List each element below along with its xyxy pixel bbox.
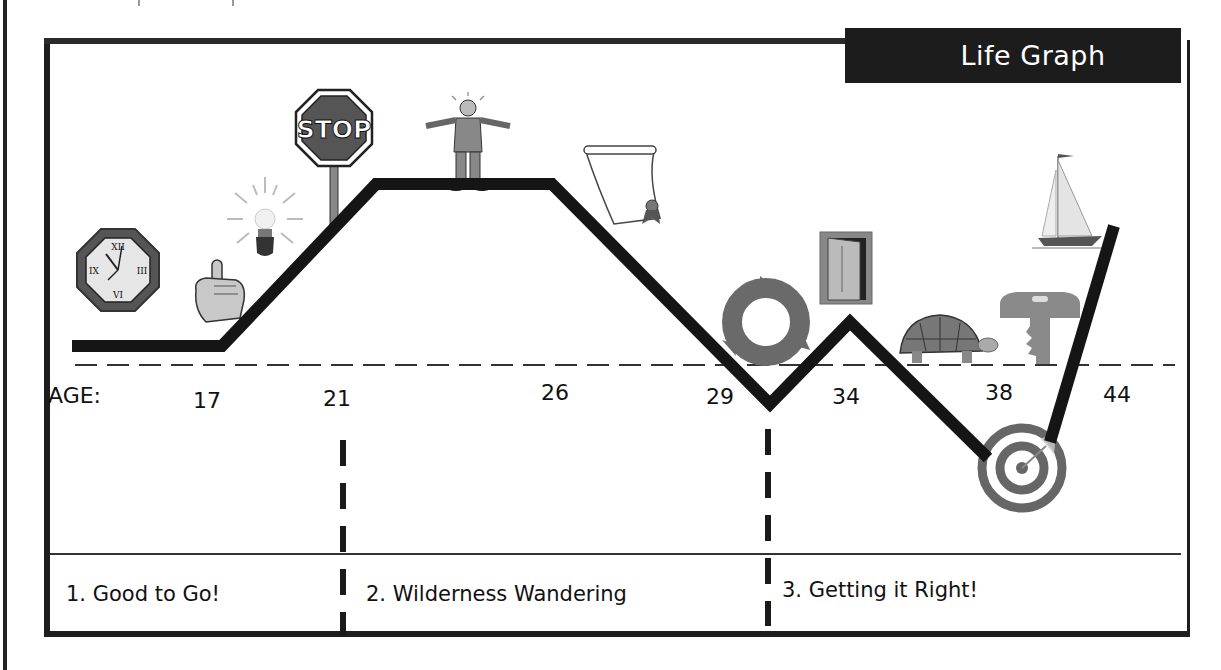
life-graph-canvas: XII VI III IX STOP [0,0,1221,670]
sailboat-icon [1032,154,1108,248]
diploma-scroll-icon [584,146,660,224]
confused-man-icon [426,92,510,191]
svg-text:XII: XII [111,242,125,252]
recycle-arrows-icon [722,276,810,356]
svg-text:III: III [137,266,148,276]
light-bulb-icon [227,177,303,256]
key-icon [1000,292,1080,364]
svg-text:IX: IX [89,266,100,276]
life-line-rise [1050,226,1114,442]
turtle-icon [900,315,998,363]
open-door-icon [820,232,872,304]
raised-finger-hand-icon [196,260,245,322]
svg-text:STOP: STOP [297,115,372,144]
svg-text:VI: VI [112,290,123,300]
clock-icon: XII VI III IX [77,229,159,311]
